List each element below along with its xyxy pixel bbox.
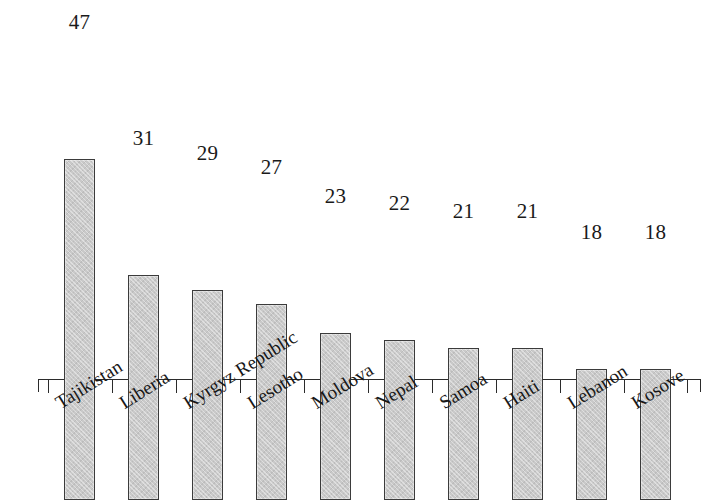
- bar-column: [512, 121, 543, 500]
- x-axis-tick: [48, 380, 49, 393]
- bar: [512, 348, 543, 500]
- bar-column: [64, 121, 95, 500]
- bar: [64, 159, 95, 500]
- bar-chart: TajikistanLiberiaKyrgyz RepublicLesothoM…: [0, 0, 702, 500]
- bar-value-label: 27: [256, 157, 287, 178]
- bar-column: [448, 121, 479, 500]
- x-axis-tick: [496, 380, 497, 393]
- bar-value-label: 21: [448, 201, 479, 222]
- bar-value-label: 18: [576, 222, 607, 243]
- bar-column: [192, 121, 223, 500]
- bar-value-label: 18: [640, 222, 671, 243]
- bar-value-label: 23: [320, 186, 351, 207]
- bar: [320, 333, 351, 500]
- bar-column: [384, 121, 415, 500]
- x-axis-right-cap: [700, 379, 701, 392]
- bar-value-label: 21: [512, 201, 543, 222]
- bar-value-label: 29: [192, 143, 223, 164]
- x-axis-left-cap: [38, 379, 39, 392]
- x-axis-tick: [176, 380, 177, 393]
- bar: [384, 340, 415, 500]
- bar-column: [128, 121, 159, 500]
- bar-column: [320, 121, 351, 500]
- bar-column: [640, 121, 671, 500]
- bar-column: [576, 121, 607, 500]
- bar-value-label: 22: [384, 193, 415, 214]
- bar-value-label: 31: [128, 128, 159, 149]
- bar-value-label: 47: [64, 12, 95, 33]
- x-axis-tick: [432, 380, 433, 393]
- x-axis-tick: [560, 380, 561, 393]
